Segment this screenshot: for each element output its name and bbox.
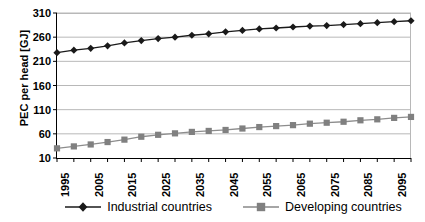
data-point-marker-diamond xyxy=(188,32,195,39)
data-point-marker-diamond xyxy=(374,19,381,26)
x-axis-tick-labels: 1995200520152025203520452055206520752085… xyxy=(56,159,410,199)
data-point-marker-diamond xyxy=(70,47,77,54)
data-point-marker-square xyxy=(324,120,330,126)
data-point-marker-square xyxy=(104,139,110,145)
data-point-marker-square xyxy=(256,124,262,130)
x-tick-label: 2015 xyxy=(127,173,138,197)
data-point-marker-diamond xyxy=(239,27,246,34)
legend-label-industrial-countries: Industrial countries xyxy=(102,200,212,214)
data-point-marker-square xyxy=(189,129,195,135)
data-point-marker-square xyxy=(374,116,380,122)
x-tick-label: 1995 xyxy=(60,173,71,197)
y-tick-label: 10 xyxy=(26,153,51,163)
x-tick-label: 2095 xyxy=(397,173,408,197)
data-point-marker-square xyxy=(54,145,60,151)
data-point-marker-square xyxy=(121,137,127,143)
x-tick-label: 2005 xyxy=(94,173,105,197)
y-tick-label: 260 xyxy=(26,32,51,42)
data-point-marker-diamond xyxy=(104,42,111,49)
data-point-marker-diamond xyxy=(407,17,414,24)
data-point-marker-square xyxy=(290,122,296,128)
y-tick-label: 60 xyxy=(26,129,51,139)
y-axis-tick-labels: 1060110160210260310 xyxy=(26,0,51,222)
data-point-marker-square xyxy=(138,134,144,140)
data-point-marker-diamond xyxy=(205,30,212,37)
data-point-marker-diamond xyxy=(53,49,60,56)
y-tick-label: 310 xyxy=(26,8,51,18)
data-point-marker-square xyxy=(206,128,212,134)
x-tick-label: 2025 xyxy=(161,173,172,197)
data-point-marker-square xyxy=(155,132,161,138)
y-tick-label: 210 xyxy=(26,56,51,66)
data-point-marker-diamond xyxy=(138,37,145,44)
data-point-marker-square xyxy=(408,114,414,120)
data-point-marker-diamond xyxy=(256,25,263,32)
legend-marker-square-icon xyxy=(242,200,280,214)
data-point-marker-square xyxy=(273,123,279,129)
data-point-marker-diamond xyxy=(357,20,364,27)
data-point-marker-diamond xyxy=(171,34,178,41)
data-point-marker-diamond xyxy=(340,21,347,28)
data-point-marker-diamond xyxy=(323,22,330,29)
chart-legend: Industrial countries Developing countrie… xyxy=(56,196,410,218)
data-point-marker-square xyxy=(239,125,245,131)
data-point-marker-diamond xyxy=(222,28,229,35)
y-tick-label: 110 xyxy=(26,105,51,115)
data-point-marker-diamond xyxy=(121,39,128,46)
legend-label-developing-countries: Developing countries xyxy=(280,200,402,214)
plot-svg xyxy=(57,13,411,158)
x-tick-label: 2055 xyxy=(262,173,273,197)
data-point-marker-square xyxy=(71,143,77,149)
data-point-marker-diamond xyxy=(306,22,313,29)
data-point-marker-diamond xyxy=(273,24,280,31)
series-developing-countries xyxy=(54,114,414,152)
data-point-marker-square xyxy=(357,117,363,123)
data-point-marker-square xyxy=(340,119,346,125)
data-point-marker-square xyxy=(307,121,313,127)
x-tick-label: 2045 xyxy=(229,173,240,197)
data-point-marker-diamond xyxy=(155,35,162,42)
x-tick-label: 2065 xyxy=(296,173,307,197)
data-point-marker-square xyxy=(222,127,228,133)
data-point-marker-square xyxy=(172,130,178,136)
data-point-marker-diamond xyxy=(289,23,296,30)
data-point-marker-square xyxy=(391,115,397,121)
legend-item-industrial-countries: Industrial countries xyxy=(64,200,212,214)
legend-item-developing-countries: Developing countries xyxy=(242,200,402,214)
data-point-marker-diamond xyxy=(87,45,94,52)
plot-area xyxy=(56,13,411,159)
x-tick-label: 2035 xyxy=(195,173,206,197)
legend-marker-diamond-icon xyxy=(64,200,102,214)
y-tick-label: 160 xyxy=(26,81,51,91)
data-point-marker-square xyxy=(88,141,94,147)
chart-container: PEC per head [GJ] 1060110160210260310 19… xyxy=(0,0,425,222)
x-tick-label: 2085 xyxy=(363,173,374,197)
data-point-marker-diamond xyxy=(391,18,398,25)
x-tick-label: 2075 xyxy=(330,173,341,197)
